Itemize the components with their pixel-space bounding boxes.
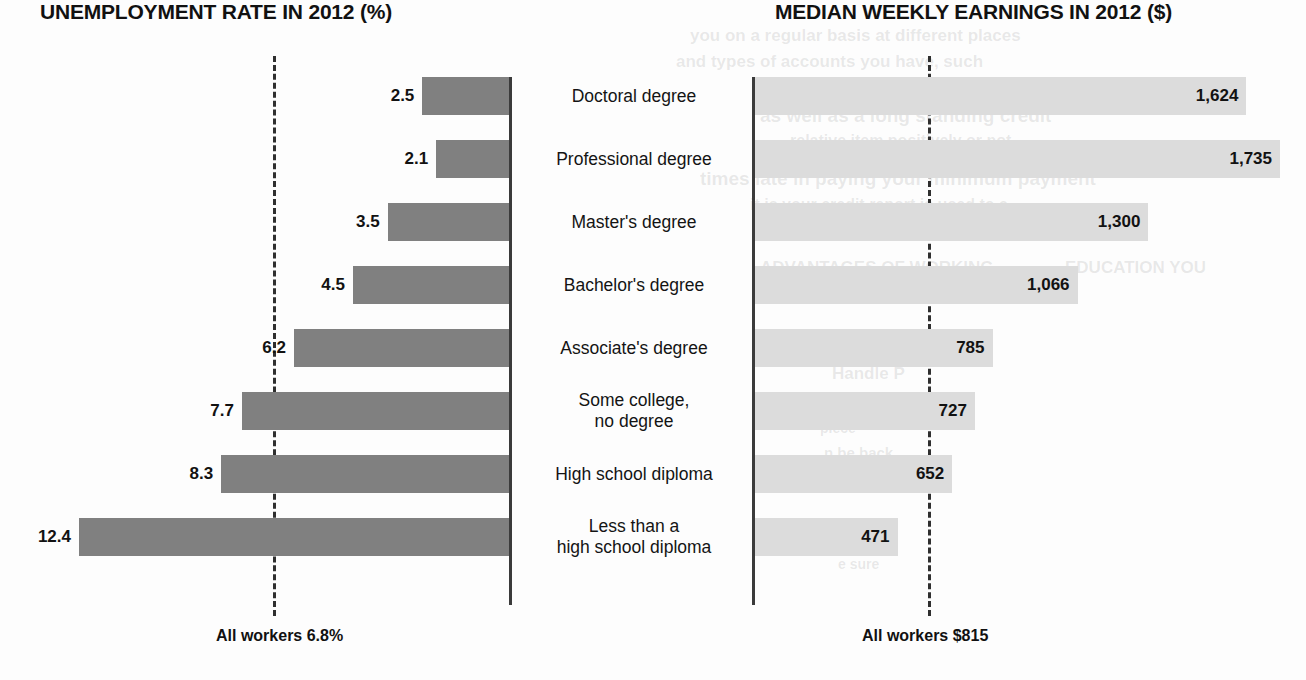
category-label: Master's degree [520, 212, 748, 233]
earnings-bar-row: 1,300 [660, 203, 1306, 241]
earnings-bar-row: 652 [660, 455, 1306, 493]
earnings-value-label: 1,300 [1082, 212, 1140, 232]
unemployment-value-label: 3.5 [356, 212, 380, 232]
unemployment-bar [294, 329, 509, 367]
earnings-bar-row: 1,066 [660, 266, 1306, 304]
ghost-text: you on a regular basis at different plac… [690, 26, 1021, 46]
left-chart-title: UNEMPLOYMENT RATE IN 2012 (%) [40, 0, 392, 24]
category-label: Some college,no degree [520, 390, 748, 432]
earnings-bar [755, 140, 1280, 178]
earnings-bar-row: 727 [660, 392, 1306, 430]
right-footer-all-workers: All workers $815 [862, 627, 988, 645]
category-label: Less than ahigh school diploma [520, 516, 748, 558]
unemployment-bar [388, 203, 509, 241]
category-label: Professional degree [520, 149, 748, 170]
unemployment-value-label: 7.7 [210, 401, 234, 421]
unemployment-value-label: 6.2 [262, 338, 286, 358]
category-label: Bachelor's degree [520, 275, 748, 296]
category-label-column: Doctoral degreeProfessional degreeMaster… [520, 56, 748, 604]
earnings-value-label: 727 [909, 401, 967, 421]
earnings-value-label: 1,735 [1214, 149, 1272, 169]
earnings-value-label: 652 [886, 464, 944, 484]
unemployment-bar [79, 518, 509, 556]
unemployment-value-label: 8.3 [190, 464, 214, 484]
earnings-bar-row: 471 [660, 518, 1306, 556]
earnings-bar-row: 785 [660, 329, 1306, 367]
category-label: Doctoral degree [520, 86, 748, 107]
category-label: Associate's degree [520, 338, 748, 359]
earnings-value-label: 1,624 [1180, 86, 1238, 106]
unemployment-value-label: 4.5 [321, 275, 345, 295]
unemployment-value-label: 2.1 [405, 149, 429, 169]
earnings-chart-panel: 1,6241,7351,3001,066785727652471 [660, 56, 1306, 604]
earnings-bar [755, 77, 1246, 115]
unemployment-bar [422, 77, 509, 115]
earnings-bar-row: 1,624 [660, 77, 1306, 115]
chart-page: you on a regular basis at different plac… [0, 0, 1306, 680]
unemployment-bar [221, 455, 509, 493]
left-footer-all-workers: All workers 6.8% [216, 627, 343, 645]
unemployment-bar [436, 140, 509, 178]
unemployment-value-label: 12.4 [38, 527, 71, 547]
unemployment-bar [353, 266, 509, 304]
right-chart-title: MEDIAN WEEKLY EARNINGS IN 2012 ($) [775, 0, 1172, 24]
earnings-value-label: 471 [832, 527, 890, 547]
earnings-bar-row: 1,735 [660, 140, 1306, 178]
unemployment-value-label: 2.5 [391, 86, 415, 106]
earnings-value-label: 1,066 [1012, 275, 1070, 295]
earnings-value-label: 785 [927, 338, 985, 358]
unemployment-bar [242, 392, 509, 430]
category-label: High school diploma [520, 464, 748, 485]
